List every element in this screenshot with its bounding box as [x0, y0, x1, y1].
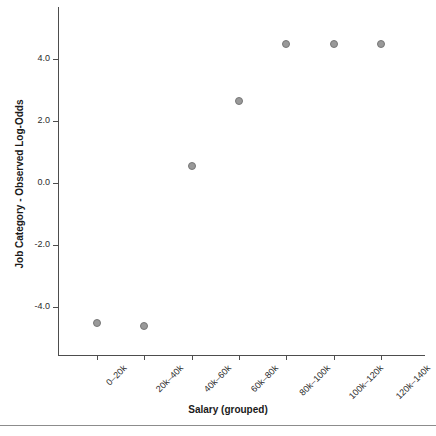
x-tick-mark — [144, 355, 145, 360]
x-axis-line — [58, 355, 425, 356]
x-tick-mark — [97, 355, 98, 360]
plot-area — [58, 7, 425, 355]
y-tick-mark — [53, 307, 58, 308]
y-axis-title: Job Category - Observed Log-Odds — [14, 10, 30, 358]
x-tick-mark — [381, 355, 382, 360]
data-point — [377, 40, 385, 48]
x-tick-label: 40k–60k — [202, 363, 233, 394]
y-tick-mark — [53, 183, 58, 184]
data-point — [282, 40, 290, 48]
data-point — [188, 162, 196, 170]
y-tick-mark — [53, 245, 58, 246]
bottom-divider — [0, 425, 436, 426]
data-point — [140, 322, 148, 330]
x-tick-mark — [334, 355, 335, 360]
y-tick-mark — [53, 121, 58, 122]
x-tick-mark — [239, 355, 240, 360]
x-tick-mark — [286, 355, 287, 360]
chart-figure: 4.02.00.0-2.0-4.0 0–20k20k–40k40k–60k60k… — [0, 0, 436, 436]
x-tick-label: 80k–100k — [298, 363, 333, 398]
x-axis-title: Salary (grouped) — [58, 404, 398, 415]
x-tick-label: 100k–120k — [346, 363, 384, 401]
data-point — [235, 97, 243, 105]
x-tick-label: 120k–140k — [394, 363, 432, 401]
x-tick-label: 0–20k — [104, 363, 128, 387]
data-point — [330, 40, 338, 48]
x-tick-label: 20k–40k — [154, 363, 185, 394]
data-point — [93, 319, 101, 327]
y-tick-mark — [53, 59, 58, 60]
y-axis-line — [58, 7, 59, 356]
x-tick-mark — [192, 355, 193, 360]
x-tick-label: 60k–80k — [249, 363, 280, 394]
